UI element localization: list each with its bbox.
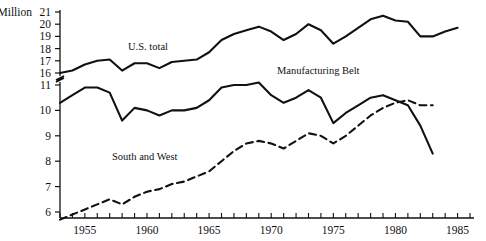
x-tick-label: 1970 (260, 224, 283, 236)
axis-break-zigzag (56, 76, 64, 82)
y-axis-unit-label: Million (0, 6, 32, 18)
series-lines (60, 16, 458, 220)
y-tick-label: 11 (40, 79, 51, 91)
y-tick-label: 19 (40, 30, 52, 42)
y-tick-label: 8 (45, 155, 51, 167)
y-tick-label: 18 (40, 43, 52, 55)
employment-line-chart: 21Million201918171611109876 195519601965… (0, 0, 486, 241)
x-axis: 1955196019651970197519801985 (60, 213, 474, 236)
y-axis: 21Million201918171611109876 (0, 6, 64, 218)
y-tick-label: 9 (45, 130, 51, 142)
y-tick-label: 10 (40, 104, 52, 116)
x-tick-label: 1980 (384, 224, 407, 236)
x-tick-label: 1955 (73, 224, 96, 236)
us-total-label: U.S. total (128, 41, 168, 52)
y-tick-label: 20 (40, 18, 52, 30)
chart-canvas: 21Million201918171611109876 195519601965… (0, 0, 486, 241)
south-and-west-label: South and West (112, 151, 178, 162)
y-tick-label: 16 (40, 67, 52, 79)
y-tick-label: 6 (45, 206, 51, 218)
y-tick-label: 7 (45, 181, 51, 193)
manufacturing-belt-label: Manufacturing Belt (277, 65, 360, 76)
x-tick-label: 1975 (322, 224, 345, 236)
x-tick-label: 1965 (198, 224, 221, 236)
x-tick-label: 1960 (135, 224, 158, 236)
x-tick-label: 1985 (446, 224, 469, 236)
y-tick-label: 17 (40, 55, 52, 67)
y-tick-label: 21 (40, 6, 52, 18)
series-line-u-s-total (60, 16, 458, 73)
